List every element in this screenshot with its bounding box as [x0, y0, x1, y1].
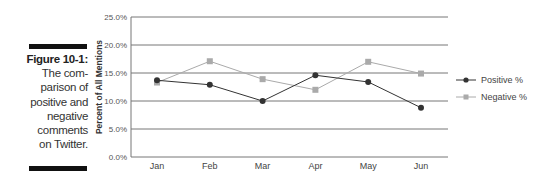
- data-point-circle: [418, 105, 424, 111]
- y-tick-label: 25.0%: [104, 13, 127, 22]
- data-point-square: [312, 87, 318, 93]
- data-point-square: [418, 71, 424, 77]
- series-positive: [154, 72, 424, 110]
- y-axis-label: Percent of All Mentions: [94, 40, 104, 134]
- legend: Positive %Negative %: [456, 75, 527, 102]
- data-point-circle: [312, 72, 318, 78]
- data-series: [154, 58, 424, 110]
- y-axis-ticks: 0.0%5.0%10.0%15.0%20.0%25.0%: [104, 13, 127, 162]
- y-tick-label: 0.0%: [109, 153, 127, 162]
- x-tick-label: Apr: [308, 161, 322, 171]
- data-point-circle: [260, 98, 266, 104]
- y-tick-label: 15.0%: [104, 69, 127, 78]
- y-tick-label: 5.0%: [109, 125, 127, 134]
- gridlines: [131, 17, 448, 157]
- x-tick-label: Jun: [414, 161, 429, 171]
- legend-label: Negative %: [481, 92, 527, 102]
- legend-circle-icon: [463, 77, 468, 82]
- data-point-square: [365, 59, 371, 65]
- y-tick-label: 10.0%: [104, 97, 127, 106]
- x-tick-label: May: [360, 161, 378, 171]
- data-point-square: [260, 76, 266, 82]
- legend-label: Positive %: [481, 75, 523, 85]
- data-point-circle: [154, 77, 160, 83]
- legend-item: Negative %: [456, 92, 527, 102]
- x-axis-ticks: JanFebMarAprMayJun: [150, 161, 429, 171]
- x-tick-label: Feb: [202, 161, 218, 171]
- x-tick-label: Jan: [150, 161, 165, 171]
- data-point-circle: [365, 79, 371, 85]
- x-tick-label: Mar: [255, 161, 271, 171]
- legend-square-icon: [464, 95, 469, 100]
- legend-item: Positive %: [456, 75, 523, 85]
- y-tick-label: 20.0%: [104, 41, 127, 50]
- line-chart: 0.0%5.0%10.0%15.0%20.0%25.0% Percent of …: [0, 0, 548, 186]
- data-point-circle: [207, 82, 213, 88]
- data-point-square: [207, 58, 213, 64]
